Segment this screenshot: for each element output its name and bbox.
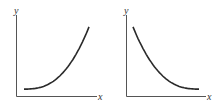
left-plot: y x [13, 5, 103, 102]
diagram: y x y x [0, 0, 219, 106]
left-xlabel: x [97, 91, 103, 102]
right-plot: y x [123, 5, 212, 102]
right-xlabel: x [206, 91, 212, 102]
right-axes [127, 15, 207, 97]
right-curve [133, 27, 199, 89]
left-axes [17, 15, 98, 97]
right-ylabel: y [123, 5, 129, 16]
left-ylabel: y [13, 5, 19, 16]
left-curve [24, 27, 89, 89]
